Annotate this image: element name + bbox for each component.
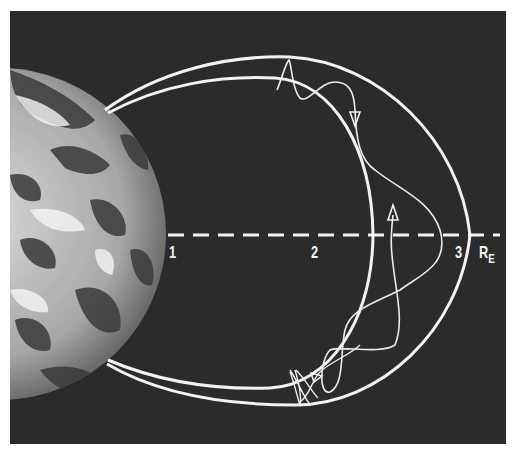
- magnetosphere-diagram: 1 2 3 RE: [0, 0, 513, 452]
- unit-r: R: [479, 243, 488, 262]
- diagram-canvas: [0, 0, 513, 452]
- axis-unit-label: RE: [479, 244, 495, 265]
- unit-subscript-e: E: [488, 251, 495, 266]
- axis-tick-2: 2: [311, 244, 318, 261]
- axis-tick-3: 3: [455, 244, 462, 261]
- axis-tick-1: 1: [169, 244, 176, 261]
